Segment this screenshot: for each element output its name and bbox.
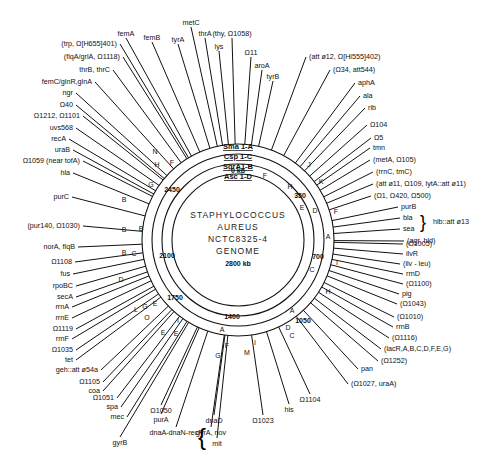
gene-label: (lacR,A,B,C,D,F,E,G) [384,344,451,353]
gene-label: (Ω1, Ω420, Ω500) [374,191,431,200]
segment-label: E [153,300,158,307]
segment-label: F [170,159,174,166]
gene-label: Ω1023 [252,416,273,425]
gene-label: pig [402,289,412,298]
gene-label: tyrB [267,72,280,81]
gene-label: femA [118,29,135,38]
segment-label: L [134,306,138,313]
segment-label: H [154,161,159,168]
segment-label: E [174,330,179,337]
gene-label: aphA [358,78,375,87]
leader-line [324,282,394,317]
leader-line [317,148,370,185]
gene-label: Ω1050 [150,406,171,415]
gene-label: (pur140, Ω1030) [27,221,80,230]
segment-label: B [122,196,127,203]
kb-tick-label: 1050 [295,317,311,324]
gene-label: (trp, Ω[H655]401) [61,39,117,48]
leader-line [176,331,208,427]
gene-label: uvs568 [50,123,73,132]
gene-label: (flqA/grlA, Ω1118) [64,52,120,61]
brace-icon: } [420,212,426,232]
segment-label: I [336,259,338,266]
segment-label: H [325,288,330,295]
segment-label: G [148,181,153,188]
gene-label: Ω104 [370,120,387,129]
gene-label: aroA [254,61,269,70]
gene-label: (Ω1005) [406,239,432,248]
gene-label: Ω1212, Ω1101 [34,111,80,120]
leader-lines [69,27,404,438]
leader-line [319,292,389,338]
gene-label: dnaD [205,416,222,425]
segment-label: F [263,172,267,179]
leader-line [73,150,154,194]
segment-label: I [254,339,256,346]
segment-label: C [309,266,314,273]
gene-label: (att ø12, Ω[Hi555]402) [309,52,380,61]
leader-line [334,229,400,233]
gene-label: (thy, Ω1058) [212,29,251,38]
leader-line [303,310,358,369]
segment-label: F [334,208,338,215]
leader-line [295,83,355,163]
gene-label: purA [153,415,168,424]
segment-label: G [142,303,147,310]
leader-line [211,335,224,427]
gene-label: mit [212,439,222,448]
segment-label: O [144,314,150,321]
gene-label: Ω5 [374,133,383,142]
gene-label: geh::att ø54a [56,365,98,374]
leader-line [120,44,188,158]
leader-line [83,116,163,180]
gene-label: tyrA [172,35,185,44]
gene-label: pan [361,364,373,373]
leader-line [72,276,149,307]
leader-line [245,57,251,144]
gene-label: thrA [198,29,211,38]
gene-label: rrnE [55,313,69,322]
kb-tick-label: 1750 [167,294,183,301]
gene-label: recA [51,134,66,143]
gene-label: (Ω1043) [400,299,426,308]
genome-size: 2800 kb [225,260,251,267]
leader-line [324,172,373,197]
leader-line [78,244,142,247]
kb-tick-label: 2450 [164,186,180,193]
leader-line [300,96,360,167]
segment-label: A [290,307,295,314]
segment-label: K [319,178,324,185]
leader-line [327,184,373,203]
segment-label: D [312,207,317,214]
leader-line [123,57,187,159]
segment-label: G [215,352,220,359]
gene-label: sea [403,224,415,233]
gene-label: uraB [55,145,70,154]
gene-label: rrnD [406,269,420,278]
gene-label: Ω1108 [51,257,72,266]
title-line-3: NCTC8325-4 [208,234,268,244]
kb-tick-label: 1400 [224,313,240,320]
segment-label: I [177,317,179,324]
segment-label: C [131,250,136,257]
gene-label: fus [60,269,70,278]
leader-line [103,312,174,391]
leader-line [333,218,400,227]
gene-label: (ilv - leu) [403,259,431,268]
leader-line [284,70,330,156]
leader-line [311,303,378,361]
leader-line [69,139,156,191]
gene-label: femC/glnR,glnA [42,77,93,86]
gene-label: (att ø11, Ω109, lytA::att ø11) [376,179,466,188]
gene-label: metC [182,18,199,27]
segment-label: H [287,183,292,190]
gene-labels: femAfemBtyrAmetCthrAlys(thy, Ω1058)Ω11ar… [23,18,466,448]
segment-label: B [122,249,127,256]
ring-label-sgra: SgrA1-B [223,162,254,171]
leader-line [332,207,398,221]
gene-label: femB [144,33,161,42]
gene-label: rrnA [55,302,69,311]
leader-line [72,197,145,216]
leader-line [314,138,371,182]
gene-label: (metA, Ω105) [373,155,416,164]
